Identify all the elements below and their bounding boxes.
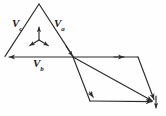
phasor-diagram-figure: Vc Va Vb — [0, 0, 166, 116]
triangle-va-arrowhead — [66, 46, 72, 56]
label-va: Va — [54, 18, 65, 32]
label-vc: Vc — [12, 18, 22, 32]
parallelogram-bottom-edge — [90, 101, 152, 102]
parallelogram-left-edge — [73, 57, 90, 101]
phasor-diagram-canvas — [0, 0, 166, 116]
label-vc-subscript: c — [19, 25, 22, 33]
label-vb-subscript: b — [40, 65, 44, 73]
label-va-subscript: a — [61, 25, 65, 33]
star-ray-down-right — [39, 40, 48, 46]
parallelogram-right-edge — [138, 57, 154, 100]
star-ray-down-left — [30, 40, 39, 46]
label-vb: Vb — [33, 58, 44, 72]
parallelogram-left-edge-arrow — [90, 92, 94, 97]
